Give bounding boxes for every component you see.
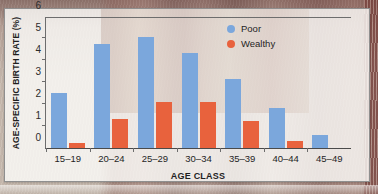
bar-wealthy xyxy=(112,119,128,148)
legend-item: Wealthy xyxy=(227,38,275,49)
x-tick-mark xyxy=(220,148,221,152)
poor-legend-swatch xyxy=(227,25,235,33)
bar-group: 25–29 xyxy=(133,18,177,148)
chart-figure-panel: AGE-SPECIFIC BIRTH RATE (%) 0123456 15–1… xyxy=(4,8,370,182)
x-tick-label: 25–29 xyxy=(142,153,168,164)
legend-item: Poor xyxy=(227,23,275,34)
page-bottom-edge xyxy=(0,185,378,194)
bar-wealthy xyxy=(200,102,216,148)
bar-group: 45–49 xyxy=(307,18,351,148)
bar-group: 30–34 xyxy=(177,18,221,148)
y-axis-title: AGE-SPECIFIC BIRTH RATE (%) xyxy=(9,17,23,149)
y-tick-label: 5 xyxy=(35,23,41,33)
x-tick-mark xyxy=(133,148,134,152)
x-tick-label: 30–34 xyxy=(185,153,211,164)
bar-wealthy xyxy=(156,102,172,148)
bar-poor xyxy=(312,135,328,148)
bar-groups: 15–1920–2425–2930–3435–3940–4445–49 xyxy=(46,18,351,148)
x-tick-label: 40–44 xyxy=(272,153,298,164)
x-tick-label: 45–49 xyxy=(316,153,342,164)
chart-legend: PoorWealthy xyxy=(227,23,275,49)
x-tick-mark xyxy=(90,148,91,152)
y-tick-label: 2 xyxy=(35,89,41,99)
bar-group: 15–19 xyxy=(46,18,90,148)
x-tick-label: 20–24 xyxy=(98,153,124,164)
y-tick-label: 3 xyxy=(35,67,41,77)
bar-poor xyxy=(269,108,285,148)
x-tick-mark xyxy=(307,148,308,152)
legend-label: Poor xyxy=(241,23,261,34)
legend-label: Wealthy xyxy=(241,38,275,49)
x-tick-mark xyxy=(46,148,47,152)
wealthy-legend-swatch xyxy=(227,40,235,48)
y-axis-title-text: AGE-SPECIFIC BIRTH RATE (%) xyxy=(11,17,21,149)
bar-poor xyxy=(51,93,67,148)
y-tick-label: 4 xyxy=(35,45,41,55)
x-tick-label: 15–19 xyxy=(55,153,81,164)
bar-poor xyxy=(182,53,198,148)
y-tick-label: 6 xyxy=(35,1,41,11)
x-tick-mark xyxy=(264,148,265,152)
plot-area: 0123456 15–1920–2425–2930–3435–3940–4445… xyxy=(45,17,351,149)
x-tick-label: 35–39 xyxy=(229,153,255,164)
bar-poor xyxy=(94,44,110,149)
bar-poor xyxy=(225,79,241,148)
y-tick-label: 0 xyxy=(35,133,41,143)
x-tick-mark xyxy=(177,148,178,152)
bar-wealthy xyxy=(243,121,259,149)
bar-group: 20–24 xyxy=(90,18,134,148)
scanned-page: AGE-SPECIFIC BIRTH RATE (%) 0123456 15–1… xyxy=(0,0,378,194)
bar-wealthy xyxy=(287,141,303,148)
bar-poor xyxy=(138,37,154,148)
y-tick-label: 1 xyxy=(35,111,41,121)
x-axis-title: AGE CLASS xyxy=(45,171,351,181)
bar-wealthy xyxy=(69,143,85,149)
